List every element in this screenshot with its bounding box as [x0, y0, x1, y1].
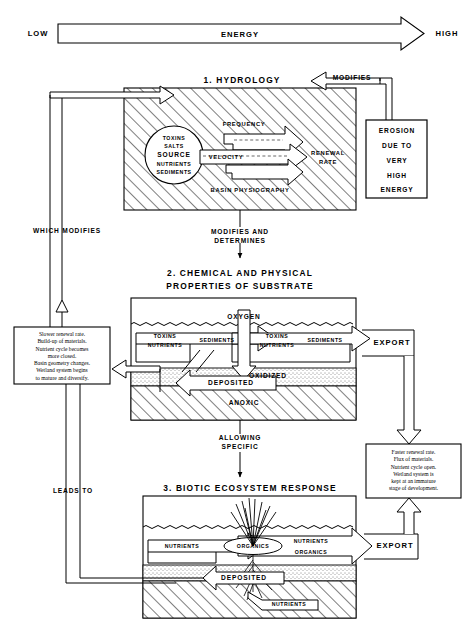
right-note-line-3: Nutrient cycle open. — [368, 464, 459, 471]
organics-label: ORGANICS — [237, 543, 269, 549]
left-sediments-label: SEDIMENTS — [199, 337, 234, 343]
erosion-line-5: ENERGY — [381, 186, 414, 193]
modifies-label: MODIFIES — [333, 74, 372, 81]
panel1-heading: 1. HYDROLOGY — [203, 75, 280, 85]
source-sediments-label: SEDIMENTS — [156, 169, 191, 175]
right-note-line-1: Faster renewal rate. — [368, 449, 459, 456]
source-label: SOURCE — [157, 151, 190, 158]
left-note-line-3: Nutrient cycle becomes — [16, 346, 108, 353]
erosion-line-2: DUE TO — [382, 142, 412, 149]
energy-bar-label: ENERGY — [221, 30, 259, 39]
panel2-substrate-shape — [131, 298, 414, 420]
source-nutrients-label: NUTRIENTS — [157, 161, 192, 167]
renewal-rate-label-1: RENEWAL — [311, 150, 345, 156]
deposited-label-3: DEPOSITED — [221, 574, 267, 581]
left-note-line-4: more closed. — [16, 353, 108, 360]
right-toxins-label: TOXINS — [266, 333, 289, 339]
modifies-determines-line-1: MODIFIES AND — [211, 228, 269, 235]
panel3-biotic-shape — [143, 496, 418, 618]
left-note-line-5: Basin geometry changes. — [16, 360, 108, 367]
right-sediments-label: SEDIMENTS — [307, 337, 342, 343]
which-modifies-label: WHICH MODIFIES — [33, 227, 101, 234]
left-note-line-1: Slower renewal rate. — [16, 331, 108, 338]
left-note-line-7: to mature and diversify. — [16, 375, 108, 382]
export2-to-right-note-shape — [397, 356, 421, 444]
left-note-line-6: Wetland system begins — [16, 367, 108, 374]
basin-physiography-label: BASIN PHYSIOGRAPHY — [211, 187, 290, 193]
right-note-line-2: Flux of materials. — [368, 456, 459, 463]
diagram-canvas: LOW ENERGY HIGH 1. HYDROLOGY MODIFIES TO… — [0, 0, 474, 639]
right-nutrients-label: NUTRIENTS — [260, 342, 295, 348]
panel2-heading-line-2: PROPERTIES OF SUBSTRATE — [166, 281, 313, 291]
panel2-heading-line-1: 2. CHEMICAL AND PHYSICAL — [167, 268, 313, 278]
allowing-label-2: SPECIFIC — [221, 443, 258, 450]
left-note-box: Slower renewal rate. Build-up of materia… — [16, 331, 108, 382]
biotic-left-nutrients-label: NUTRIENTS — [165, 543, 200, 549]
leads-to-label: LEADS TO — [53, 487, 93, 494]
allowing-label-1: ALLOWING — [219, 434, 262, 441]
export-label-2: EXPORT — [373, 338, 410, 347]
left-toxins-label: TOXINS — [154, 333, 177, 339]
left-nutrients-label: NUTRIENTS — [148, 342, 183, 348]
oxygen-label: OXYGEN — [227, 313, 260, 320]
energy-high-label: HIGH — [436, 29, 459, 38]
anoxic-label: ANOXIC — [229, 399, 260, 406]
right-note-line-5: kept at an immature — [368, 478, 459, 485]
modifies-determines-line-2: DETERMINES — [214, 237, 266, 244]
left-note-line-2: Build-up of materials. — [16, 338, 108, 345]
source-salts-label: SALTS — [164, 143, 183, 149]
right-note-line-4: Wetland system is — [368, 471, 459, 478]
export-label-3: EXPORT — [376, 541, 413, 550]
right-note-line-6: stage of development. — [368, 485, 459, 492]
source-toxins-label: TOXINS — [163, 135, 186, 141]
export3-to-right-note-shape — [397, 498, 421, 534]
velocity-label: VELOCITY — [209, 154, 244, 160]
renewal-rate-label-2: RATE — [319, 159, 337, 165]
deposited-label-2: DEPOSITED — [208, 379, 254, 386]
energy-low-label: LOW — [28, 29, 49, 38]
panel3-heading: 3. BIOTIC ECOSYSTEM RESPONSE — [163, 483, 337, 493]
frequency-label: FREQUENCY — [223, 121, 266, 127]
right-note-box: Faster renewal rate. Flux of materials. … — [368, 449, 459, 493]
erosion-line-4: HIGH — [387, 172, 407, 179]
root-nutrients-label: NUTRIENTS — [272, 601, 307, 607]
erosion-line-3: VERY — [386, 157, 407, 164]
biotic-right-organics-label: ORGANICS — [295, 549, 327, 555]
biotic-right-nutrients-label: NUTRIENTS — [294, 538, 329, 544]
erosion-line-1: EROSION — [379, 127, 415, 134]
oxidized-label: OXIDIZED — [249, 372, 287, 379]
